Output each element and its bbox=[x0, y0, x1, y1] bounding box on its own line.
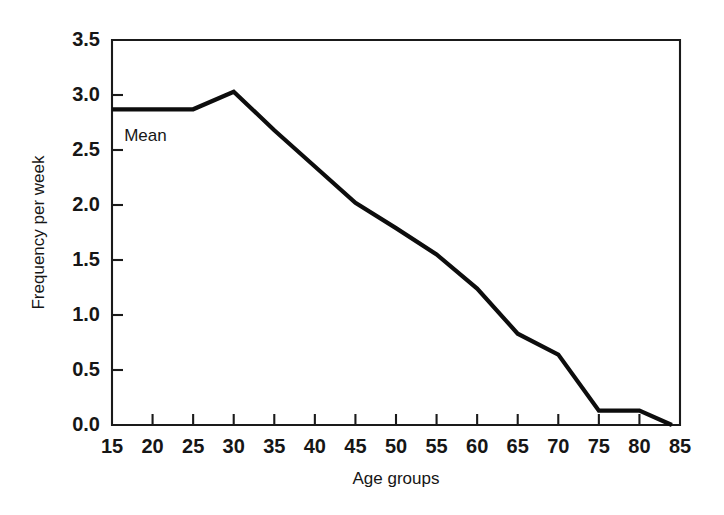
x-tick-label: 75 bbox=[588, 435, 610, 457]
x-axis-tick-labels: 152025303540455055606570758085 bbox=[101, 435, 691, 457]
x-tick-label: 65 bbox=[507, 435, 529, 457]
x-tick-label: 60 bbox=[466, 435, 488, 457]
x-tick-label: 30 bbox=[223, 435, 245, 457]
series-annotation-mean: Mean bbox=[124, 126, 167, 145]
x-tick-label: 50 bbox=[385, 435, 407, 457]
annotations-group: Mean bbox=[124, 126, 167, 145]
x-tick-label: 15 bbox=[101, 435, 123, 457]
plot-frame bbox=[112, 40, 680, 425]
x-tick-label: 55 bbox=[425, 435, 447, 457]
y-tick-label: 3.0 bbox=[72, 83, 100, 105]
chart-container: 152025303540455055606570758085 0.00.51.0… bbox=[0, 0, 724, 515]
y-tick-label: 2.0 bbox=[72, 193, 100, 215]
x-tick-label: 40 bbox=[304, 435, 326, 457]
line-chart: 152025303540455055606570758085 0.00.51.0… bbox=[0, 0, 724, 515]
x-tick-label: 20 bbox=[141, 435, 163, 457]
x-tick-label: 80 bbox=[628, 435, 650, 457]
y-tick-label: 2.5 bbox=[72, 138, 100, 160]
y-tick-label: 1.5 bbox=[72, 248, 100, 270]
x-tick-label: 70 bbox=[547, 435, 569, 457]
x-axis-ticks bbox=[153, 414, 640, 425]
y-axis-ticks bbox=[112, 95, 123, 370]
y-tick-label: 0.0 bbox=[72, 413, 100, 435]
x-axis-title: Age groups bbox=[353, 469, 440, 488]
x-tick-label: 25 bbox=[182, 435, 204, 457]
x-tick-label: 45 bbox=[344, 435, 366, 457]
y-tick-label: 1.0 bbox=[72, 303, 100, 325]
y-tick-label: 3.5 bbox=[72, 28, 100, 50]
y-axis-title: Frequency per week bbox=[29, 155, 48, 310]
y-axis-tick-labels: 0.00.51.01.52.02.53.03.5 bbox=[72, 28, 100, 435]
axis-frame bbox=[112, 40, 680, 425]
x-tick-label: 85 bbox=[669, 435, 691, 457]
x-tick-label: 35 bbox=[263, 435, 285, 457]
data-series-group bbox=[112, 92, 672, 425]
data-series-line bbox=[112, 92, 672, 425]
y-tick-label: 0.5 bbox=[72, 358, 100, 380]
